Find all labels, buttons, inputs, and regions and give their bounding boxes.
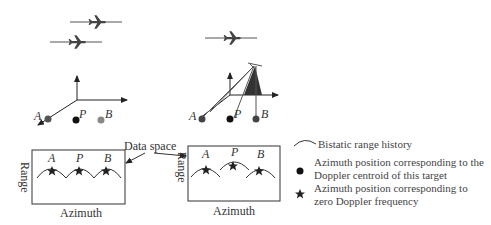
arc-icon [294, 140, 316, 146]
legend-dot-line1: Azimuth position corresponding to the [314, 156, 484, 169]
panel-right-target-p: P [231, 146, 238, 158]
airplane-icon [70, 15, 122, 29]
label-b-right: B [261, 108, 268, 120]
legend-dot-line2: Doppler centroid of this target [314, 169, 447, 182]
panel-left-y-axis: Range [19, 162, 31, 193]
point-b-right [253, 116, 260, 123]
legend-arc-text: Bistatic range history [318, 138, 412, 151]
point-p-right [227, 116, 234, 123]
legend-star-line2: zero Doppler frequency [314, 195, 418, 208]
panel-right-target-a: A [202, 148, 209, 160]
point-a-left [45, 116, 52, 123]
panel-left-target-a: A [48, 152, 55, 164]
panel-left-target-b: B [104, 152, 111, 164]
star-icon [295, 189, 305, 199]
panel-right-y-axis: Range [176, 152, 188, 183]
label-a-right: A [189, 110, 196, 122]
panel-right-target-b: B [257, 148, 264, 160]
data-space-label: Data space [124, 140, 176, 152]
panel-right-x-axis: Azimuth [213, 205, 255, 217]
panel-left-target-p: P [76, 152, 83, 164]
star-icon [201, 161, 264, 176]
point-a-right [199, 116, 206, 123]
panel-left-x-axis: Azimuth [60, 207, 102, 219]
point-b-left [98, 117, 105, 124]
label-p-left: P [79, 108, 86, 120]
airplane-icon [205, 31, 257, 45]
label-p-right: P [234, 108, 241, 120]
dot-icon [297, 168, 304, 175]
airplane-icon [50, 35, 102, 49]
legend-star-line1: Azimuth position corresponding to [314, 182, 468, 195]
label-b-left: B [105, 108, 112, 120]
data-space-arrow-left [126, 153, 145, 163]
label-a-left: A [34, 110, 41, 122]
